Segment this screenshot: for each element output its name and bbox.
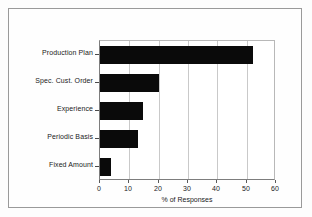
category-label: Periodic Basis [47,133,93,140]
plot-area [99,40,275,180]
bar-periodic-basis [100,130,138,148]
x-tick-label: 50 [236,185,256,192]
x-tick-mark [187,180,188,183]
x-tick-mark [158,180,159,183]
x-tick-label: 60 [265,185,285,192]
category-label: Spec. Cust. Order [35,77,93,84]
bar-fixed-amount [100,158,111,176]
category-label: Production Plan [42,49,93,56]
category-tick [95,138,99,139]
category-label: Fixed Amount [49,161,93,168]
x-axis-title: % of Responses [99,196,275,203]
category-tick [95,166,99,167]
bar-production-plan [100,46,253,64]
x-tick-label: 40 [206,185,226,192]
category-tick [95,82,99,83]
bar-row [100,74,276,92]
x-tick-mark [128,180,129,183]
x-tick-mark [275,180,276,183]
bar-chart-figure: % of Responses Production PlanSpec. Cust… [0,0,312,217]
category-tick [95,110,99,111]
bar-row [100,102,276,120]
x-tick-label: 30 [177,185,197,192]
bar-row [100,158,276,176]
x-tick-label: 10 [118,185,138,192]
bar-spec-cust-order [100,74,159,92]
x-tick-mark [216,180,217,183]
bar-row [100,46,276,64]
x-tick-label: 0 [89,185,109,192]
x-tick-label: 20 [148,185,168,192]
x-tick-mark [246,180,247,183]
category-label: Experience [57,105,93,112]
bar-experience [100,102,143,120]
x-tick-mark [99,180,100,183]
bar-row [100,130,276,148]
category-tick [95,54,99,55]
